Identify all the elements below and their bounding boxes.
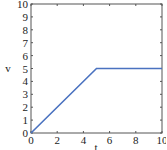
series-line <box>31 69 162 134</box>
x-axis-label: t <box>94 141 97 150</box>
x-tick-label: 10 <box>157 134 167 146</box>
y-tick-label: 9 <box>23 11 29 23</box>
line-chart: 0246810 012345678910 t v <box>0 0 166 150</box>
y-tick-label: 4 <box>23 75 29 87</box>
y-tick-label: 10 <box>17 0 29 10</box>
y-axis-label: v <box>5 62 11 74</box>
x-tick-label: 8 <box>133 134 139 146</box>
y-tick-label: 0 <box>23 127 29 139</box>
data-series <box>31 69 162 134</box>
x-tick-label: 0 <box>28 134 34 146</box>
x-tick-label: 6 <box>107 134 113 146</box>
y-tick-label: 2 <box>23 101 29 113</box>
y-tick-label: 3 <box>23 88 29 100</box>
x-tick-label: 4 <box>81 134 87 146</box>
y-tick-label: 6 <box>23 50 29 62</box>
y-tick-label: 1 <box>23 114 29 126</box>
y-tick-label: 8 <box>23 24 29 36</box>
x-tick-label: 2 <box>54 134 60 146</box>
y-tick-label: 7 <box>23 37 29 49</box>
y-axis-ticks: 012345678910 <box>17 0 162 139</box>
x-axis-ticks: 0246810 <box>28 4 166 146</box>
y-tick-label: 5 <box>23 63 29 75</box>
